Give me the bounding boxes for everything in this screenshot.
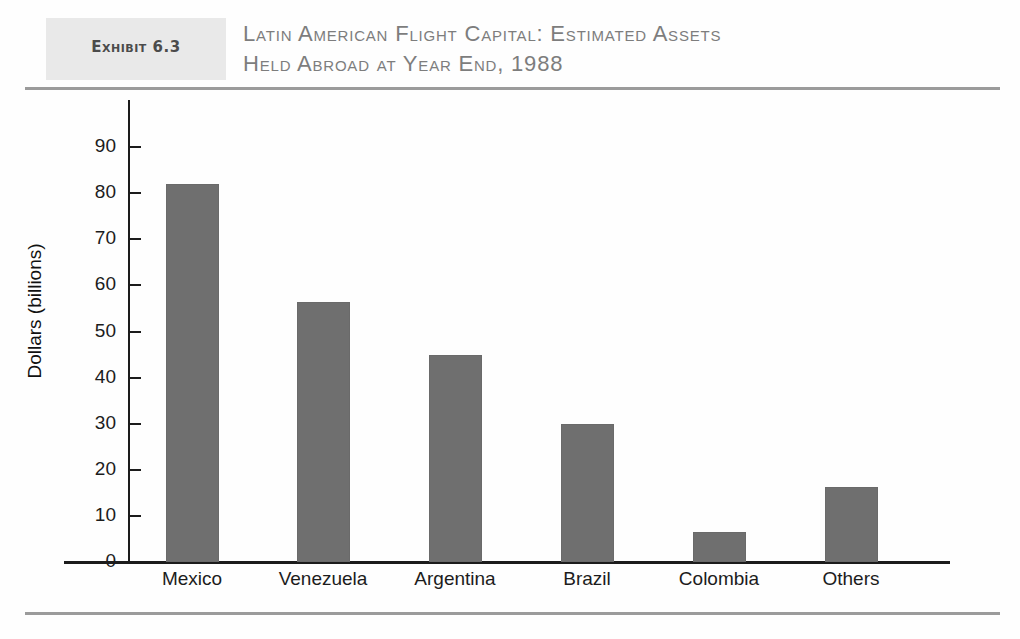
y-axis-tick-label: 40 <box>74 366 116 388</box>
x-axis-label: Others <box>776 568 926 590</box>
y-axis-title: Dollars (billions) <box>24 221 46 401</box>
y-axis-tick-label: 90 <box>74 135 116 157</box>
x-axis-label: Argentina <box>380 568 530 590</box>
y-axis-tick-label: 30 <box>74 412 116 434</box>
y-axis-tick <box>130 331 141 333</box>
bar <box>429 355 482 562</box>
bottom-rule-divider <box>25 612 1000 615</box>
x-axis-label: Mexico <box>117 568 267 590</box>
y-axis-tick <box>130 377 141 379</box>
y-axis-tick <box>130 284 141 286</box>
y-axis-tick <box>130 469 141 471</box>
y-axis-tick-label: 70 <box>74 227 116 249</box>
bar <box>166 184 219 562</box>
y-axis-tick <box>130 515 141 517</box>
exhibit-page: Exhibit 6.3 Latin American Flight Capita… <box>0 0 1020 639</box>
bar-chart: Dollars (billions) 0102030405060708090 M… <box>0 0 1020 639</box>
y-axis-tick-label: 60 <box>74 273 116 295</box>
y-axis-tick-label: 20 <box>74 458 116 480</box>
x-axis-label: Colombia <box>644 568 794 590</box>
y-axis-tick <box>130 192 141 194</box>
x-axis-label: Venezuela <box>248 568 398 590</box>
bar <box>297 302 350 562</box>
y-axis-tick-label: 10 <box>74 504 116 526</box>
y-axis-tick-label: 80 <box>74 181 116 203</box>
bar <box>693 532 746 562</box>
bar <box>561 424 614 562</box>
y-axis-tick-label: 0 <box>74 550 116 572</box>
x-axis-label: Brazil <box>512 568 662 590</box>
y-axis-tick-label: 50 <box>74 320 116 342</box>
y-axis-tick <box>130 146 141 148</box>
y-axis-tick <box>130 238 141 240</box>
bar <box>825 487 878 562</box>
y-axis-tick <box>130 423 141 425</box>
